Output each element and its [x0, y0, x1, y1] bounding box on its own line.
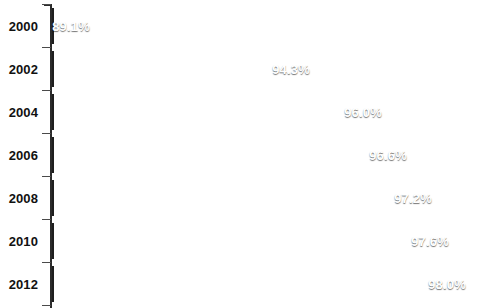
- bar: [52, 137, 54, 173]
- bar-row: 89.1%: [52, 8, 99, 44]
- bar-row: 97.6%: [52, 223, 458, 259]
- category-label-2002: 2002: [0, 51, 44, 87]
- axis-tick: [42, 4, 51, 5]
- bar: [52, 94, 54, 130]
- bar-row: 96.0%: [52, 94, 391, 130]
- bar-value-label: 96.6%: [369, 137, 407, 173]
- category-label-2000: 2000: [0, 8, 44, 44]
- bar-value-label: 94.3%: [272, 51, 310, 87]
- bar: [52, 266, 54, 302]
- bar: [52, 51, 54, 87]
- category-label-2010: 2010: [0, 223, 44, 259]
- axis-tick: [42, 305, 51, 306]
- axis-tick: [42, 219, 51, 220]
- bar-chart: 89.1%94.3%96.0%96.6%97.2%97.6%98.0% 2000…: [0, 0, 495, 308]
- bar-row: 98.0%: [52, 266, 475, 302]
- chart-title: [60, 0, 480, 2]
- axis-tick: [42, 47, 51, 48]
- bar-value-label: 97.6%: [411, 223, 449, 259]
- axis-tick: [42, 133, 51, 134]
- bar-value-label: 98.0%: [428, 266, 466, 302]
- category-label-2012: 2012: [0, 266, 44, 302]
- axis-tick: [42, 262, 51, 263]
- bar-row: 96.6%: [52, 137, 416, 173]
- bar-value-label: 96.0%: [344, 94, 382, 130]
- category-label-2004: 2004: [0, 94, 44, 130]
- axis-tick: [42, 90, 51, 91]
- bar: [52, 223, 54, 259]
- category-label-2006: 2006: [0, 137, 44, 173]
- bar-value-label: 89.1%: [52, 8, 90, 44]
- axis-tick: [42, 176, 51, 177]
- category-label-2008: 2008: [0, 180, 44, 216]
- bar-value-label: 97.2%: [394, 180, 432, 216]
- bar-row: 97.2%: [52, 180, 441, 216]
- bar: [52, 180, 54, 216]
- bar-row: 94.3%: [52, 51, 319, 87]
